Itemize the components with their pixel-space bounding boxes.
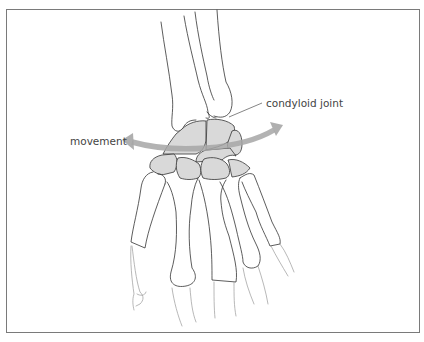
metacarpal-2 (167, 178, 198, 286)
movement-label: movement (70, 136, 127, 147)
capitate-bone (201, 158, 230, 180)
phalanx-middle (214, 282, 236, 318)
trapezium-bone (150, 154, 177, 175)
metacarpal-4 (220, 178, 260, 268)
metacarpal-3 (199, 180, 237, 282)
condyloid-joint-label: condyloid joint (266, 98, 343, 109)
phalanx-little (271, 244, 294, 276)
phalanx-index (172, 288, 196, 326)
ulna-bone (195, 12, 214, 100)
metacarpal-1 (131, 172, 165, 248)
metacarpal-5 (240, 174, 280, 246)
radius-bone (161, 22, 196, 131)
wrist-diagram (0, 0, 424, 342)
phalanx-ring (243, 266, 268, 304)
joint-leader-line (229, 103, 262, 117)
phalanx-thumb (131, 246, 143, 310)
